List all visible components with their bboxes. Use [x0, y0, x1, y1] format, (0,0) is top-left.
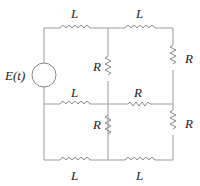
label-R-mid-right: R: [133, 85, 142, 100]
label-R-mid-lower: R: [92, 117, 101, 132]
resistor-mid-upper-icon: [105, 56, 111, 75]
label-L-bottom-left: L: [70, 168, 78, 183]
label-R-mid-upper: R: [92, 59, 101, 74]
inductor-bottom-right-icon: [125, 158, 155, 161]
circuit-diagram: E(t) L L R R L R R R L L: [0, 0, 200, 186]
resistor-right-upper-icon: [170, 45, 176, 64]
label-R-right-lower: R: [184, 116, 193, 131]
resistor-mid-right-icon: [128, 102, 150, 106]
inductor-bottom-left-icon: [60, 158, 90, 161]
label-R-right-upper: R: [184, 51, 193, 66]
resistor-right-lower-icon: [170, 110, 176, 129]
voltage-source-icon: [32, 63, 56, 87]
source-label: E(t): [4, 68, 25, 83]
label-L-bottom-right: L: [135, 168, 143, 183]
inductor-top-left-icon: [60, 26, 90, 29]
inductor-top-right-icon: [125, 26, 155, 29]
label-L-top-left: L: [70, 6, 78, 21]
label-L-top-right: L: [135, 6, 143, 21]
label-L-mid-left: L: [70, 85, 78, 100]
inductor-mid-left-icon: [60, 102, 90, 105]
